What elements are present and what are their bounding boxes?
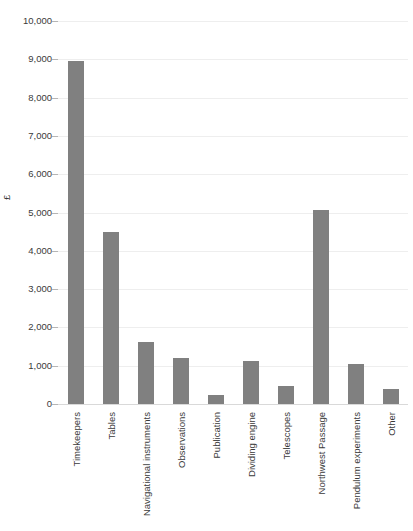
x-axis-tick-label: Northwest Passage bbox=[303, 404, 338, 531]
x-axis-tick-label: Tables bbox=[93, 404, 128, 531]
y-axis-tick-labels: 10,0009,0008,0007,0006,0005,0004,0003,00… bbox=[0, 21, 52, 404]
gridline bbox=[58, 21, 408, 22]
x-axis-tick-label-text: Publication bbox=[210, 412, 221, 458]
y-axis-tick-label: 8,000 bbox=[0, 93, 52, 103]
plot-area bbox=[58, 21, 408, 404]
bar[interactable] bbox=[138, 342, 154, 404]
y-axis-tick-mark bbox=[52, 213, 58, 214]
bar[interactable] bbox=[208, 395, 224, 404]
bar[interactable] bbox=[348, 364, 364, 404]
x-axis-tick-label: Telescopes bbox=[268, 404, 303, 531]
y-axis-tick-label: 5,000 bbox=[0, 208, 52, 218]
x-axis-tick-label-text: Telescopes bbox=[280, 412, 291, 460]
y-axis-tick-mark bbox=[52, 59, 58, 60]
y-axis-tick-label: 2,000 bbox=[0, 322, 52, 332]
y-axis-tick-label: 1,000 bbox=[0, 361, 52, 371]
chart-page: £ 10,0009,0008,0007,0006,0005,0004,0003,… bbox=[0, 0, 413, 531]
bar[interactable] bbox=[173, 358, 189, 404]
y-axis-tick-label: 6,000 bbox=[0, 169, 52, 179]
x-axis-tick-label: Publication bbox=[198, 404, 233, 531]
y-axis-tick-mark bbox=[52, 136, 58, 137]
x-axis-tick-label-text: Navigational instruments bbox=[140, 412, 151, 516]
gridline bbox=[58, 98, 408, 99]
x-axis-tick-label: Pendulum experiments bbox=[338, 404, 373, 531]
x-axis-tick-label-text: Dividing engine bbox=[245, 412, 256, 477]
y-axis-tick-mark bbox=[52, 327, 58, 328]
y-axis-tick-mark bbox=[52, 98, 58, 99]
y-axis-tick-label: 4,000 bbox=[0, 246, 52, 256]
x-axis-tick-label: Dividing engine bbox=[233, 404, 268, 531]
x-axis-tick-label: Timekeepers bbox=[58, 404, 93, 531]
x-axis-tick-label: Observations bbox=[163, 404, 198, 531]
x-axis-tick-label: Other bbox=[373, 404, 408, 531]
y-axis-tick-label: 10,000 bbox=[0, 16, 52, 26]
x-axis-tick-label-text: Observations bbox=[175, 412, 186, 468]
y-axis-tick-mark bbox=[52, 174, 58, 175]
bar[interactable] bbox=[68, 61, 84, 404]
gridline bbox=[58, 59, 408, 60]
y-axis-tick-label: 0 bbox=[0, 399, 52, 409]
x-axis-tick-label-text: Pendulum experiments bbox=[350, 412, 361, 509]
y-axis-tick-mark bbox=[52, 289, 58, 290]
gridline bbox=[58, 136, 408, 137]
y-axis-tick-mark bbox=[52, 366, 58, 367]
x-axis-tick-label-text: Timekeepers bbox=[70, 412, 81, 467]
bar[interactable] bbox=[383, 389, 399, 404]
y-axis-tick-mark bbox=[52, 21, 58, 22]
bar[interactable] bbox=[313, 210, 329, 404]
gridline bbox=[58, 174, 408, 175]
x-axis-tick-label-text: Tables bbox=[105, 412, 116, 439]
y-axis-tick-mark bbox=[52, 251, 58, 252]
bar[interactable] bbox=[103, 232, 119, 404]
bar[interactable] bbox=[278, 386, 294, 404]
x-axis-tick-labels: TimekeepersTablesNavigational instrument… bbox=[58, 404, 408, 531]
y-axis-tick-label: 7,000 bbox=[0, 131, 52, 141]
gridline bbox=[58, 213, 408, 214]
x-axis-tick-label-text: Northwest Passage bbox=[315, 412, 326, 494]
x-axis-tick-label: Navigational instruments bbox=[128, 404, 163, 531]
y-axis-tick-label: 9,000 bbox=[0, 54, 52, 64]
y-axis-tick-label: 3,000 bbox=[0, 284, 52, 294]
bar[interactable] bbox=[243, 361, 259, 404]
x-axis-tick-label-text: Other bbox=[385, 412, 396, 436]
